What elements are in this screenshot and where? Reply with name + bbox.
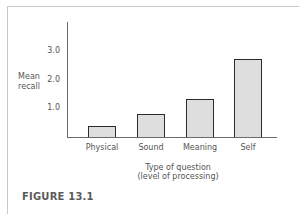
frame-left-border: [7, 6, 8, 214]
x-axis-label: Type of question (level of processing): [108, 163, 248, 181]
x-tick-self: Self: [218, 143, 278, 152]
figure-caption: FIGURE 13.1: [22, 191, 94, 202]
y-tick-3: 3.0: [34, 47, 60, 55]
y-axis: [67, 22, 68, 137]
bar-meaning: [186, 99, 214, 137]
x-axis-label-line1: Type of question: [108, 163, 248, 172]
bar-sound: [137, 114, 165, 137]
bar-physical: [88, 126, 116, 137]
frame-top-border: [7, 6, 299, 7]
x-axis-label-line2: (level of processing): [108, 172, 248, 181]
y-tick-1: 1.0: [34, 104, 60, 112]
y-tick-2: 2.0: [34, 76, 60, 84]
x-axis: [67, 137, 277, 138]
bar-self: [234, 59, 262, 137]
